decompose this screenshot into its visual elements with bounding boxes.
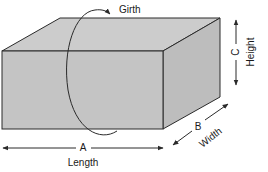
- height-dimension: C Height: [230, 20, 256, 85]
- width-arrow-upper: [205, 104, 228, 120]
- box-front-face: [2, 51, 163, 129]
- box: [2, 18, 220, 129]
- height-letter: C: [230, 48, 241, 55]
- width-arrow-lower: [173, 131, 192, 145]
- length-label: Length: [68, 157, 99, 168]
- package-dimensions-diagram: Girth C Height B Width A Length: [0, 0, 268, 172]
- length-dimension: A Length: [3, 142, 163, 168]
- width-letter: B: [195, 121, 202, 132]
- height-label: Height: [245, 37, 256, 66]
- length-letter: A: [80, 142, 87, 153]
- girth-label: Girth: [119, 4, 141, 15]
